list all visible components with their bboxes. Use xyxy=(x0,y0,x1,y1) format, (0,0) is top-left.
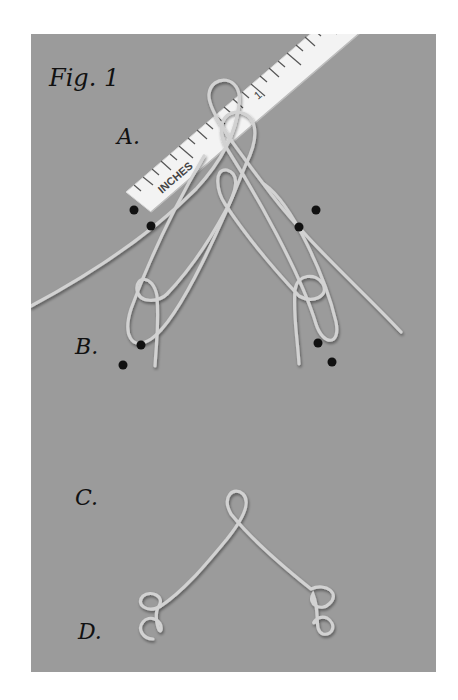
marker-dot xyxy=(137,341,146,350)
step-label-d: D. xyxy=(78,621,102,643)
step-label-c: C. xyxy=(75,487,98,509)
marker-dot xyxy=(295,223,304,232)
marker-dot xyxy=(119,361,128,370)
wire-step-a xyxy=(31,80,401,332)
step-label-b: B. xyxy=(75,336,98,358)
step-label-a: A. xyxy=(117,126,140,148)
figure-title: Fig. 1 xyxy=(49,66,119,90)
wire-step-b xyxy=(128,112,337,343)
marker-dot xyxy=(147,222,156,231)
figure-panel: INCHES 1 Fig. 1 A. B. C. D. xyxy=(31,34,436,672)
marker-dot xyxy=(328,358,337,367)
marker-dot xyxy=(314,339,323,348)
marker-dot xyxy=(312,206,321,215)
wire-step-d xyxy=(140,491,333,639)
marker-dot xyxy=(130,206,139,215)
